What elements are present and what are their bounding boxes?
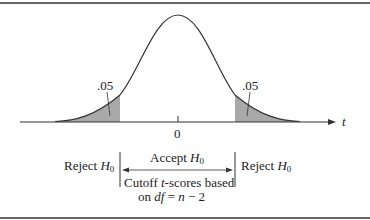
left-rejection-area — [55, 95, 120, 122]
axis-arrowhead-icon — [328, 119, 336, 125]
cutoff-label-line2: on df = n − 2 — [138, 190, 205, 203]
reject-right-label: Reject H0 — [241, 159, 291, 176]
center-tick-label: 0 — [174, 127, 181, 140]
t-distribution-curve — [55, 15, 300, 122]
arrow-right-icon — [226, 168, 233, 173]
right-rejection-area — [235, 95, 300, 122]
right-tail-label: .05 — [242, 79, 258, 92]
left-tail-label: .05 — [97, 79, 113, 92]
reject-left-label: Reject H0 — [64, 159, 114, 176]
axis-label-t: t — [342, 115, 346, 128]
cutoff-label-line1: Cutoff t-scores based — [124, 176, 234, 189]
accept-label: Accept H0 — [150, 151, 204, 168]
arrow-left-icon — [122, 168, 129, 173]
